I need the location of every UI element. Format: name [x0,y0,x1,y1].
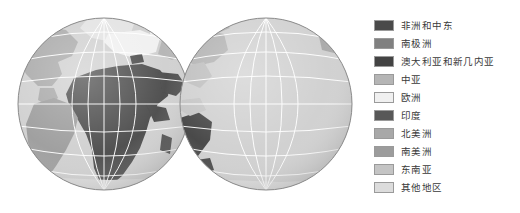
legend-swatch [374,164,394,175]
legend-label: 澳大利亚和新几内亚 [401,56,495,67]
legend-label: 印度 [401,110,422,121]
world-region-map-figure: 非洲和中东 南极洲 澳大利亚和新几内亚 中亚 欧洲 印度 北美洲 [0,0,520,213]
globe-atlantic-shading [18,18,190,190]
legend-swatch [374,56,394,67]
legend-label: 南极洲 [401,38,432,49]
legend-item-australia-new-guinea: 澳大利亚和新几内亚 [374,52,520,70]
map-legend: 非洲和中东 南极洲 澳大利亚和新几内亚 中亚 欧洲 印度 北美洲 [374,16,520,196]
legend-item-europe: 欧洲 [374,88,520,106]
legend-label: 欧洲 [401,92,422,103]
globes-svg [0,0,370,213]
globe-pacific [180,18,358,200]
globe-pacific-shading [180,18,352,190]
legend-item-india: 印度 [374,106,520,124]
legend-swatch [374,128,394,139]
legend-label: 其他地区 [401,182,443,193]
legend-label: 东南亚 [401,164,432,175]
legend-item-antarctica: 南极洲 [374,34,520,52]
legend-swatch [374,74,394,85]
legend-swatch [374,146,394,157]
globe-atlantic [10,16,198,200]
legend-label: 南美洲 [401,146,432,157]
legend-label: 北美洲 [401,128,432,139]
legend-label: 中亚 [401,74,422,85]
legend-swatch [374,110,394,121]
legend-item-north-america: 北美洲 [374,124,520,142]
legend-label: 非洲和中东 [401,20,453,31]
legend-swatch [374,38,394,49]
legend-item-africa-middle-east: 非洲和中东 [374,16,520,34]
legend-swatch [374,20,394,31]
legend-swatch [374,92,394,103]
legend-item-central-asia: 中亚 [374,70,520,88]
legend-item-southeast-asia: 东南亚 [374,160,520,178]
globe-pair [0,0,370,213]
legend-item-south-america: 南美洲 [374,142,520,160]
legend-swatch [374,182,394,193]
legend-item-other-regions: 其他地区 [374,178,520,196]
